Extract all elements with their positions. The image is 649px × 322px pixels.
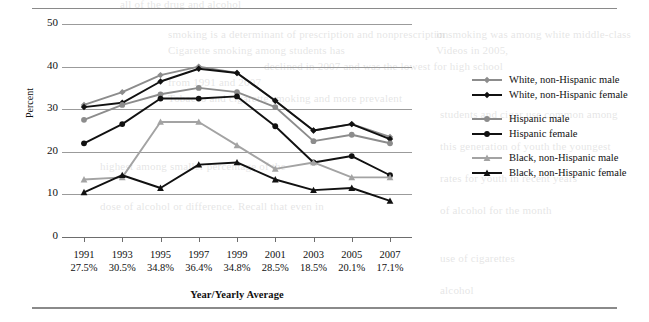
data-point-marker xyxy=(81,117,87,123)
data-point-marker xyxy=(484,131,490,137)
y-axis-tick-label: 50 xyxy=(38,17,58,28)
data-point-marker xyxy=(196,96,202,102)
legend-swatch-icon xyxy=(470,73,504,87)
data-point-marker xyxy=(484,116,490,122)
chart-legend: White, non-Hispanic maleWhite, non-Hispa… xyxy=(470,72,628,189)
y-axis-tick-label: 40 xyxy=(38,60,58,71)
legend-label: White, non-Hispanic female xyxy=(509,89,628,101)
series-lines-group xyxy=(62,24,412,238)
data-point-marker xyxy=(157,72,163,78)
data-point-marker xyxy=(387,140,393,146)
x-axis-category-label: 200717.1% xyxy=(367,248,413,274)
x-axis-yearly-average: 17.1% xyxy=(367,261,413,274)
x-axis-year: 2007 xyxy=(367,248,413,261)
data-point-marker xyxy=(484,91,490,97)
y-axis-tick-label: 0 xyxy=(38,230,58,241)
bleed-text-line: Videos in 2005, xyxy=(436,44,508,56)
figure-page: all of the drug and alcohol in smoking w… xyxy=(0,0,649,322)
bleed-text-line: of alcohol for the month xyxy=(440,204,552,216)
top-divider-rule xyxy=(32,8,617,9)
legend-item[interactable]: White, non-Hispanic female xyxy=(470,87,628,102)
legend-item[interactable]: Hispanic female xyxy=(470,126,628,141)
series-black-non-hispanic-female xyxy=(81,159,394,204)
data-point-marker xyxy=(311,138,317,144)
legend-item[interactable]: White, non-Hispanic male xyxy=(470,72,628,87)
legend-label: White, non-Hispanic male xyxy=(509,74,620,86)
data-point-marker xyxy=(234,94,240,100)
legend-label: Hispanic male xyxy=(509,113,569,125)
legend-group: Hispanic maleHispanic female xyxy=(470,111,628,141)
series-line xyxy=(84,69,390,139)
legend-label: Black, non-Hispanic female xyxy=(509,167,627,179)
y-axis-title: Percent xyxy=(24,88,35,118)
y-axis-tick-label: 20 xyxy=(38,145,58,156)
bleed-text-line: alcohol xyxy=(440,284,474,296)
data-point-marker xyxy=(119,89,125,95)
series-line xyxy=(84,162,390,200)
series-line xyxy=(84,122,390,180)
data-point-marker xyxy=(349,153,355,159)
legend-swatch-icon xyxy=(470,112,504,126)
data-point-marker xyxy=(119,121,125,127)
legend-swatch-icon xyxy=(470,127,504,141)
y-axis-tick-label: 10 xyxy=(38,187,58,198)
series-black-non-hispanic-male xyxy=(81,119,394,183)
data-point-marker xyxy=(484,76,490,82)
data-point-marker xyxy=(81,140,87,146)
data-point-marker xyxy=(272,104,278,110)
data-point-marker xyxy=(272,123,278,129)
legend-item[interactable]: Black, non-Hispanic male xyxy=(470,150,628,165)
x-axis-title: Year/Yearly Average xyxy=(62,289,412,300)
legend-swatch-icon xyxy=(470,88,504,102)
legend-swatch-icon xyxy=(470,166,504,180)
plot-area: 01020304050 199127.5%199330.5%199534.8%1… xyxy=(62,24,412,238)
y-axis-tick-label: 30 xyxy=(38,102,58,113)
data-point-marker xyxy=(196,85,202,91)
data-point-marker xyxy=(158,96,164,102)
bleed-text-line: use of cigarettes xyxy=(440,252,515,264)
legend-item[interactable]: Black, non-Hispanic female xyxy=(470,165,628,180)
legend-swatch-icon xyxy=(470,151,504,165)
legend-label: Hispanic female xyxy=(509,128,578,140)
legend-label: Black, non-Hispanic male xyxy=(509,152,618,164)
legend-group: White, non-Hispanic maleWhite, non-Hispa… xyxy=(470,72,628,102)
data-point-marker xyxy=(119,102,125,108)
bleed-text-line: in smoking was among white middle-class xyxy=(436,28,631,40)
data-point-marker xyxy=(349,132,355,138)
data-point-marker xyxy=(349,121,355,127)
legend-item[interactable]: Hispanic male xyxy=(470,111,628,126)
legend-group: Black, non-Hispanic maleBlack, non-Hispa… xyxy=(470,150,628,180)
bottom-divider-rule xyxy=(32,307,617,309)
